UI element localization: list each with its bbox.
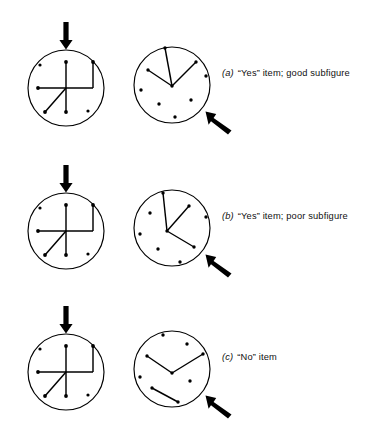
diagonal-arrow-icon [206, 255, 232, 278]
caption-b: (b)“Yes” item; poor subfigure [222, 211, 348, 221]
diagonal-arrow-icon [206, 396, 232, 419]
complex-figure-a [28, 50, 104, 126]
row-c-graphic [0, 284, 387, 430]
complex-figure-b [28, 193, 104, 269]
caption-c: (c)“No” item [222, 352, 277, 362]
down-arrow-icon [59, 22, 72, 50]
simple-figure-c [134, 331, 210, 407]
figure-row-b: (b)“Yes” item; poor subfigure [0, 143, 387, 289]
embedded-figures-test-figure: (a)“Yes” item; good subfigure [0, 0, 387, 439]
caption-c-text: “No” item [237, 352, 277, 362]
down-arrow-icon [59, 165, 72, 193]
down-arrow-icon [59, 306, 72, 334]
figure-row-a: (a)“Yes” item; good subfigure [0, 0, 387, 146]
diagonal-arrow-icon [206, 112, 232, 135]
caption-a: (a)“Yes” item; good subfigure [222, 68, 350, 78]
simple-figure-b [134, 190, 210, 266]
caption-c-id: (c) [222, 352, 233, 362]
caption-a-id: (a) [222, 68, 234, 78]
caption-b-id: (b) [222, 211, 234, 221]
complex-figure-c [28, 334, 104, 410]
caption-a-text: “Yes” item; good subfigure [238, 68, 350, 78]
caption-b-text: “Yes” item; poor subfigure [238, 211, 348, 221]
simple-figure-a [134, 46, 210, 123]
figure-row-c: (c)“No” item [0, 284, 387, 430]
